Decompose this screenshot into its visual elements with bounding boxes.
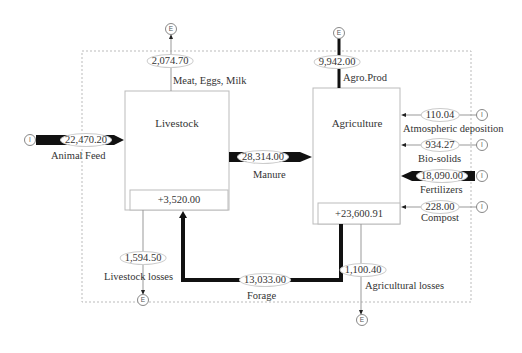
import-node-icon: I [476,170,488,182]
atmospheric-deposition-label: Atmospheric deposition [403,123,504,135]
atmospheric-deposition-value: 110.04 [421,108,460,122]
import-node-icon: I [476,139,488,151]
import-node-icon: I [24,134,36,146]
arrowhead-icon [179,211,187,218]
agriculture-title: Agriculture [332,117,383,129]
arrowhead-icon [401,205,406,209]
livestock-stock-change: +3,520.00 [130,190,228,209]
agricultural-losses-label: Agricultural losses [365,280,444,292]
meat-eggs-milk-label: Meat, Eggs, Milk [173,75,247,87]
bio-solids-label: Bio-solids [418,153,461,165]
agro-prod-label: Agro.Prod [343,72,387,84]
livestock-losses-label: Livestock losses [104,271,173,283]
manure-value: 28,314.00 [237,150,289,164]
agriculture-stock-change: +23,600.91 [318,204,400,223]
fertilizers-value: 18,090.00 [416,169,468,183]
animal-feed-value: 22,470.20 [60,133,112,147]
agricultural-losses-value: 1,100.40 [340,263,387,277]
livestock-title: Livestock [155,117,198,129]
compost-label: Compost [421,212,459,224]
agro-prod-value: 9,942.00 [314,55,361,69]
bio-solids-value: 934.27 [421,138,460,152]
export-node-icon: E [165,23,177,35]
export-node-icon: E [333,27,345,39]
export-node-icon: E [356,314,368,326]
meat-eggs-milk-value: 2,074.70 [147,54,194,68]
forage-label: Forage [247,290,276,302]
livestock-losses-value: 1,594.50 [120,251,167,265]
import-node-icon: I [476,109,488,121]
fertilizers-label: Fertilizers [420,184,463,196]
forage-value: 13,033.00 [239,273,291,287]
arrowhead-icon [401,113,406,117]
animal-feed-label: Animal Feed [51,150,106,162]
export-node-icon: E [137,294,149,306]
manure-label: Manure [253,169,286,181]
arrowhead-icon [401,143,406,147]
import-node-icon: I [476,201,488,213]
forage-flow [183,216,341,280]
